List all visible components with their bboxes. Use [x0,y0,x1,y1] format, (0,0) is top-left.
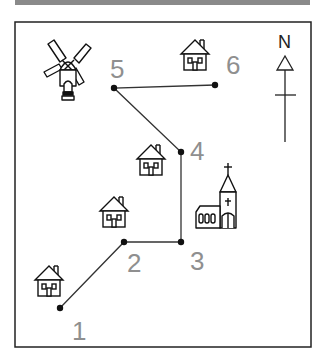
church-icon [196,163,236,228]
house-icon [137,145,165,175]
label-1: 1 [72,316,86,346]
route-map: 1 2 3 4 5 6 N [0,0,324,362]
point-2 [121,239,127,245]
north-label: N [278,32,291,52]
point-1 [57,305,63,311]
house-icon [181,40,209,70]
house-icon [100,197,128,227]
point-5 [111,85,117,91]
point-3 [178,239,184,245]
house-icon [35,266,63,296]
label-4: 4 [190,136,204,166]
north-arrow-icon: N [275,32,296,142]
point-6 [212,82,218,88]
point-4 [178,149,184,155]
label-6: 6 [226,50,240,80]
label-2: 2 [127,248,141,278]
windmill-icon [44,40,91,100]
label-5: 5 [110,54,124,84]
label-3: 3 [190,246,204,276]
